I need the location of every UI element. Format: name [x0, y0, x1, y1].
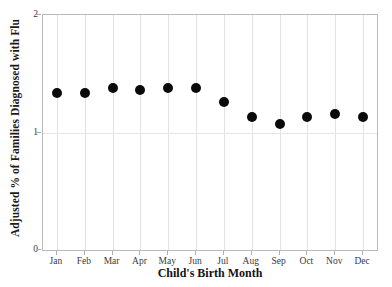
- x-tick-label: May: [159, 256, 176, 266]
- x-tick-label: Oct: [300, 256, 314, 266]
- data-point: [275, 119, 285, 129]
- data-point: [219, 97, 229, 107]
- x-tick-label: Aug: [243, 256, 259, 266]
- data-point: [80, 88, 90, 98]
- data-point: [358, 112, 368, 122]
- gridline-horizontal: [43, 133, 377, 134]
- y-axis-ticks: 012: [0, 14, 38, 251]
- y-tick-label: 2: [2, 9, 38, 19]
- x-tick-label: Jun: [188, 256, 201, 266]
- y-tick-mark: [36, 14, 41, 15]
- x-tick-label: Feb: [77, 256, 91, 266]
- data-point: [247, 112, 257, 122]
- data-point: [163, 83, 173, 93]
- x-tick-label: Sep: [271, 256, 285, 266]
- x-tick-mark: [334, 251, 335, 255]
- x-axis-title: Child's Birth Month: [42, 266, 378, 281]
- x-tick-mark: [195, 251, 196, 255]
- x-tick-mark: [167, 251, 168, 255]
- data-point: [108, 83, 118, 93]
- data-point: [52, 88, 62, 98]
- x-tick-label: Mar: [104, 256, 120, 266]
- chart-figure: Adjusted % of Families Diagnosed with Fl…: [0, 0, 392, 287]
- x-tick-label: Jul: [217, 256, 228, 266]
- plot-area: [42, 14, 378, 251]
- x-tick-mark: [362, 251, 363, 255]
- x-tick-mark: [139, 251, 140, 255]
- x-tick-mark: [306, 251, 307, 255]
- x-tick-mark: [84, 251, 85, 255]
- x-tick-mark: [251, 251, 252, 255]
- x-tick-label: Nov: [326, 256, 342, 266]
- x-tick-label: Jan: [50, 256, 63, 266]
- data-point: [191, 83, 201, 93]
- x-tick-label: Apr: [132, 256, 147, 266]
- x-tick-mark: [223, 251, 224, 255]
- x-tick-mark: [56, 251, 57, 255]
- y-tick-label: 0: [2, 244, 38, 254]
- y-tick-mark: [36, 249, 41, 250]
- y-tick-label: 1: [2, 127, 38, 137]
- data-point: [330, 109, 340, 119]
- data-point: [302, 112, 312, 122]
- x-tick-mark: [112, 251, 113, 255]
- y-tick-mark: [36, 132, 41, 133]
- data-point: [135, 85, 145, 95]
- x-tick-mark: [279, 251, 280, 255]
- x-tick-label: Dec: [354, 256, 369, 266]
